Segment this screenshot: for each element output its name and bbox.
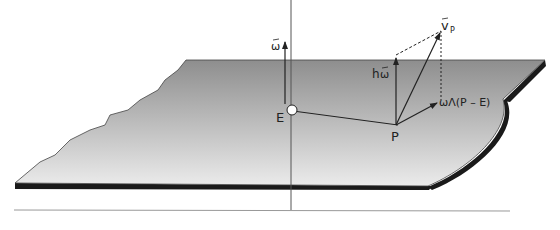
kinematics-diagram: ω E P h ω v P ωΛ(P – E) [0,0,560,230]
h-omega-label: ω [380,68,389,81]
point-p-label: P [391,129,399,144]
vp-subscript: P [450,26,455,35]
point-e-label: E [276,110,284,125]
cross-product-label: ωΛ(P – E) [439,96,490,109]
point-e-marker [287,105,297,115]
vp-label: v [441,18,449,33]
separator-line [14,210,510,211]
omega-label: ω [271,40,280,53]
h-label: h [372,67,380,81]
dashed-line-top [396,31,441,55]
